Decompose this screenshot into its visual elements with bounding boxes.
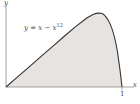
x-axis-label: x bbox=[133, 82, 137, 89]
equation-lhs: y = x − x bbox=[24, 24, 56, 32]
x-tick-label-1: 1 bbox=[120, 91, 124, 98]
area-plot bbox=[0, 0, 140, 104]
equation-exponent: 12 bbox=[56, 22, 62, 28]
equation-label: y = x − x12 bbox=[24, 23, 63, 32]
y-axis-label: y bbox=[4, 0, 8, 7]
